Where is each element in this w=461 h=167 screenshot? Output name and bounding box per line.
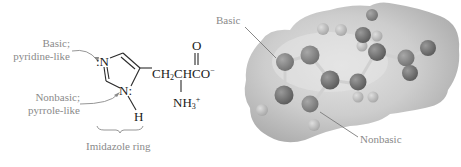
basic-model-label: Basic [216, 14, 240, 26]
nonbasic-nitrogen-atom [302, 96, 319, 113]
nonbasic-model-label: Nonbasic [360, 133, 402, 145]
basic-nitrogen-atom [276, 53, 294, 71]
